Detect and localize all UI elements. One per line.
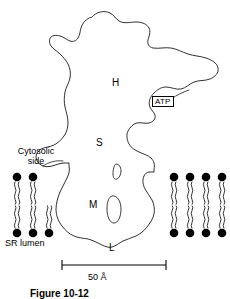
lipid-bilayer-right	[170, 173, 227, 238]
lipid-tail	[18, 182, 20, 205]
lipid-head-icon	[170, 173, 179, 182]
lipid-left-inner-1	[13, 206, 22, 238]
lipid-right-outer-4	[218, 173, 227, 205]
lipid-tail	[207, 182, 209, 205]
protein-cavity-lower	[107, 196, 121, 223]
lipid-tail	[191, 206, 193, 229]
protein-cavity-upper	[113, 164, 121, 179]
lipid-tail	[30, 182, 32, 205]
lipid-head-icon	[45, 229, 54, 238]
lipid-head-icon	[218, 173, 227, 182]
lipid-tail	[219, 206, 221, 229]
lipid-head-icon	[186, 173, 195, 182]
lipid-tail	[30, 206, 32, 229]
label-cytosolic-side-line2: side	[28, 156, 45, 166]
lipid-head-icon	[170, 229, 179, 238]
lipid-right-inner-2	[186, 206, 195, 238]
protein-outline-group	[36, 12, 218, 248]
lipid-head-icon	[218, 229, 227, 238]
lipid-tail	[223, 182, 225, 205]
lipid-head-icon	[202, 173, 211, 182]
lipid-left-outer-2	[29, 173, 38, 205]
label-sr-lumen: SR lumen	[5, 238, 45, 248]
lipid-head-icon	[202, 229, 211, 238]
label-scale-bar: 50 Å	[88, 272, 107, 282]
lipid-head-icon	[29, 173, 38, 182]
lipid-tail	[207, 206, 209, 229]
protein-outline	[36, 12, 218, 248]
lipid-bilayer-left	[13, 173, 54, 238]
lipid-tail	[14, 206, 16, 229]
lipid-right-outer-3	[202, 173, 211, 205]
label-domain-l: L	[109, 243, 115, 253]
lipid-tail	[187, 182, 189, 205]
label-cytosolic-side-line1: Cytosolic	[18, 146, 55, 156]
lipid-head-icon	[13, 173, 22, 182]
label-cytosolic-side: Cytosolic side	[7, 146, 65, 166]
lipid-head-icon	[186, 229, 195, 238]
lipid-head-icon	[29, 229, 38, 238]
lipid-left-inner-3	[45, 206, 54, 238]
lipid-right-outer-2	[186, 173, 195, 205]
lipid-tail	[203, 206, 205, 229]
lipid-left-outer-1	[13, 173, 22, 205]
lipid-left-inner-2	[29, 206, 38, 238]
label-domain-s: S	[96, 138, 103, 148]
label-atp-binding-site: ATP	[152, 96, 174, 107]
lipid-tail	[191, 182, 193, 205]
lipid-right-outer-1	[170, 173, 179, 205]
lipid-tail	[203, 182, 205, 205]
lipid-right-inner-4	[218, 206, 227, 238]
figure-caption: Figure 10-12	[30, 289, 89, 299]
lipid-head-icon	[13, 229, 22, 238]
lipid-tail	[223, 206, 225, 229]
lipid-tail	[46, 206, 48, 229]
lipid-tail	[34, 206, 36, 229]
lipid-tail	[219, 182, 221, 205]
lipid-tail	[50, 206, 52, 229]
lipid-tail	[175, 206, 177, 229]
lipid-tail	[18, 206, 20, 229]
lipid-right-inner-3	[202, 206, 211, 238]
lipid-tail	[187, 206, 189, 229]
scale-bar	[62, 260, 166, 270]
lipid-tail	[171, 182, 173, 205]
lipid-right-inner-1	[170, 206, 179, 238]
lipid-tail	[14, 182, 16, 205]
lipid-tail	[175, 182, 177, 205]
lipid-tail	[171, 206, 173, 229]
atp-leader-line	[171, 90, 189, 99]
lipid-tail	[34, 182, 36, 205]
label-domain-m: M	[89, 200, 97, 210]
label-domain-h: H	[112, 78, 119, 88]
